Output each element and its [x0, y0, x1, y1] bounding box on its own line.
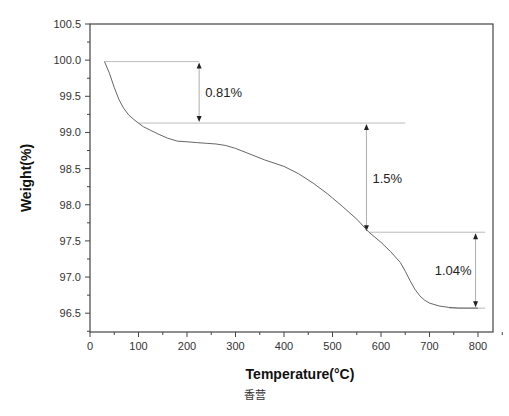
annotation-label: 1.5% [372, 171, 402, 186]
y-tick-label: 96.5 [60, 307, 81, 319]
x-tick-label: 200 [178, 340, 196, 352]
x-tick-label: 800 [469, 340, 487, 352]
y-tick-label: 99.0 [60, 126, 81, 138]
plot-frame [90, 24, 493, 332]
annotation-labels: 0.81%1.5%1.04% [205, 85, 472, 278]
y-tick-label: 97.5 [60, 235, 81, 247]
figure-caption: 香营 [0, 386, 509, 402]
x-tick-label: 300 [226, 340, 244, 352]
annotation-label: 0.81% [205, 85, 242, 100]
tga-chart: 96.597.097.598.098.599.099.5100.0100.5 0… [0, 0, 509, 416]
x-axis-title: Temperature(°C) [246, 366, 355, 382]
x-tick-label: 400 [275, 340, 293, 352]
x-tick-label: 700 [420, 340, 438, 352]
y-tick-label: 98.5 [60, 163, 81, 175]
y-tick-label: 100.5 [53, 18, 81, 30]
y-axis-title: Weight(%) [18, 144, 34, 212]
tga-curve [105, 62, 479, 309]
x-tick-label: 100 [129, 340, 147, 352]
y-axis: 96.597.097.598.098.599.099.5100.0100.5 [53, 18, 90, 331]
y-tick-label: 100.0 [53, 54, 81, 66]
x-tick-label: 600 [372, 340, 390, 352]
x-tick-label: 0 [87, 340, 93, 352]
y-tick-label: 99.5 [60, 90, 81, 102]
y-tick-label: 97.0 [60, 271, 81, 283]
annotation-label: 1.04% [435, 263, 472, 278]
x-tick-label: 500 [323, 340, 341, 352]
x-axis: 0100200300400500600700800 [87, 332, 502, 352]
reference-lines [105, 62, 486, 309]
y-tick-label: 98.0 [60, 199, 81, 211]
